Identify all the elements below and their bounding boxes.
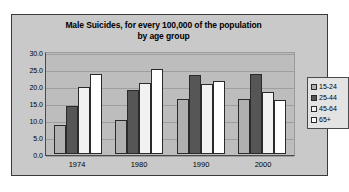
bar [54,125,66,154]
legend-item[interactable]: 65+ [311,114,346,125]
legend-item[interactable]: 25-44 [311,92,346,103]
bar [139,83,151,154]
legend-swatch-icon [311,117,317,123]
x-axis-labels: 1974198019902000 [46,160,294,169]
chart-title: Male Suicides, for every 100,000 of the … [26,20,301,42]
legend-label: 25-44 [319,94,337,101]
gridline [46,156,294,157]
bar [189,75,201,154]
legend-item[interactable]: 15-24 [311,81,346,92]
y-axis-tick-label: 30.0 [17,50,43,57]
x-axis-label: 1974 [49,160,105,169]
bar [250,74,262,154]
bar-group [54,54,102,154]
x-axis-label: 2000 [235,160,291,169]
bar [78,87,90,154]
bar-group [177,54,225,154]
y-axis-tick-label: 15.0 [17,101,43,108]
bar-groups [47,54,293,154]
x-axis-label: 1990 [173,160,229,169]
chart-title-line-2: by age group [26,31,301,42]
y-axis-tick-label: 5.0 [17,135,43,142]
bar-group [238,54,286,154]
legend-swatch-icon [311,106,317,112]
bar [177,99,189,154]
bar [66,106,78,154]
legend-swatch-icon [311,95,317,101]
bar [274,100,286,154]
bar [238,99,250,154]
bar [127,90,139,154]
x-axis-label: 1980 [111,160,167,169]
y-axis-tick-label: 20.0 [17,84,43,91]
plot-area [45,52,295,156]
legend-label: 45-64 [319,105,337,112]
legend-label: 15-24 [319,83,337,90]
y-axis-tick-label: 25.0 [17,67,43,74]
y-axis-tick-label: 0.0 [17,152,43,159]
bar [90,74,102,154]
bar [213,81,225,154]
chart-title-line-1: Male Suicides, for every 100,000 of the … [26,20,301,31]
bar-group [115,54,163,154]
bar [151,69,163,154]
chart-frame: Male Suicides, for every 100,000 of the … [11,14,328,176]
legend-swatch-icon [311,84,317,90]
bar [115,120,127,154]
plot-wrap: 30.025.020.015.010.05.00.0 [45,52,295,156]
bar [201,84,213,154]
chart-legend: 15-2425-4445-6465+ [307,77,349,129]
y-axis-tick-label: 10.0 [17,118,43,125]
legend-item[interactable]: 45-64 [311,103,346,114]
bar [262,92,274,154]
legend-label: 65+ [319,116,331,123]
